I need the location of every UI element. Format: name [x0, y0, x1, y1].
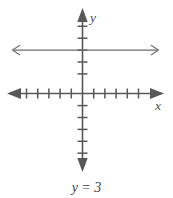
equation-caption: y = 3: [70, 180, 102, 195]
graph-canvas: y x y = 3: [0, 0, 173, 198]
coordinate-plane-figure: y x y = 3: [0, 0, 173, 198]
line-y-equals-3: [13, 45, 159, 55]
y-axis-label: y: [88, 10, 96, 25]
x-axis-label: x: [154, 98, 161, 113]
y-axis-arrow-up: [77, 8, 87, 22]
y-axis-group: [77, 8, 87, 172]
y-axis-arrow-down: [77, 158, 87, 172]
x-axis-arrow-left: [7, 88, 21, 99]
x-axis-group: [7, 88, 164, 99]
